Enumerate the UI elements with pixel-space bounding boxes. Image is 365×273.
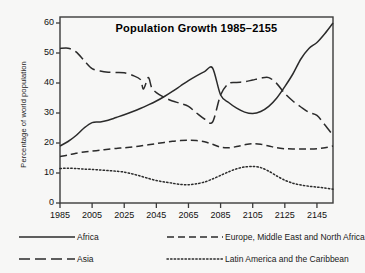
x-tick-label: 2065 bbox=[171, 210, 205, 220]
chart-legend: AfricaEurope, Middle East and North Afri… bbox=[18, 228, 336, 272]
legend-label: Asia bbox=[77, 254, 94, 264]
y-tick-label: 60 bbox=[18, 17, 54, 27]
legend-label: Europe, Middle East and North Africa bbox=[225, 232, 365, 242]
legend-line-swatch-longdash bbox=[18, 254, 76, 264]
x-tick-label: 2025 bbox=[107, 210, 141, 220]
y-tick-label: 20 bbox=[18, 137, 54, 147]
legend-item[interactable]: Europe, Middle East and North Africa bbox=[166, 228, 365, 246]
plot-frame bbox=[60, 17, 333, 203]
series-line-europe-middle-east-and-north-africa bbox=[60, 140, 333, 156]
legend-item[interactable]: Latin America and the Caribbean bbox=[166, 250, 349, 268]
legend-line-swatch-dotted bbox=[166, 254, 224, 264]
y-tick-label: 10 bbox=[18, 167, 54, 177]
x-tick-label: 2045 bbox=[139, 210, 173, 220]
x-tick-label: 2145 bbox=[300, 210, 334, 220]
y-tick-label: 50 bbox=[18, 47, 54, 57]
data-series-group bbox=[60, 23, 333, 189]
legend-line-swatch-solid bbox=[18, 232, 76, 242]
y-tick-label: 40 bbox=[18, 77, 54, 87]
x-axis-ticks bbox=[60, 203, 317, 208]
legend-item[interactable]: Africa bbox=[18, 228, 99, 246]
legend-line-swatch-dashed bbox=[166, 232, 224, 242]
x-tick-label: 2125 bbox=[268, 210, 302, 220]
legend-label: Latin America and the Caribbean bbox=[225, 254, 349, 264]
series-line-latin-america-and-the-caribbean bbox=[60, 166, 333, 189]
x-tick-label: 1985 bbox=[43, 210, 77, 220]
series-line-africa bbox=[60, 23, 333, 146]
legend-label: Africa bbox=[77, 232, 99, 242]
x-tick-label: 2105 bbox=[236, 210, 270, 220]
legend-item[interactable]: Asia bbox=[18, 250, 94, 268]
x-tick-label: 2085 bbox=[204, 210, 238, 220]
y-tick-label: 30 bbox=[18, 107, 54, 117]
x-tick-label: 2005 bbox=[75, 210, 109, 220]
y-tick-label: 0 bbox=[18, 197, 54, 207]
